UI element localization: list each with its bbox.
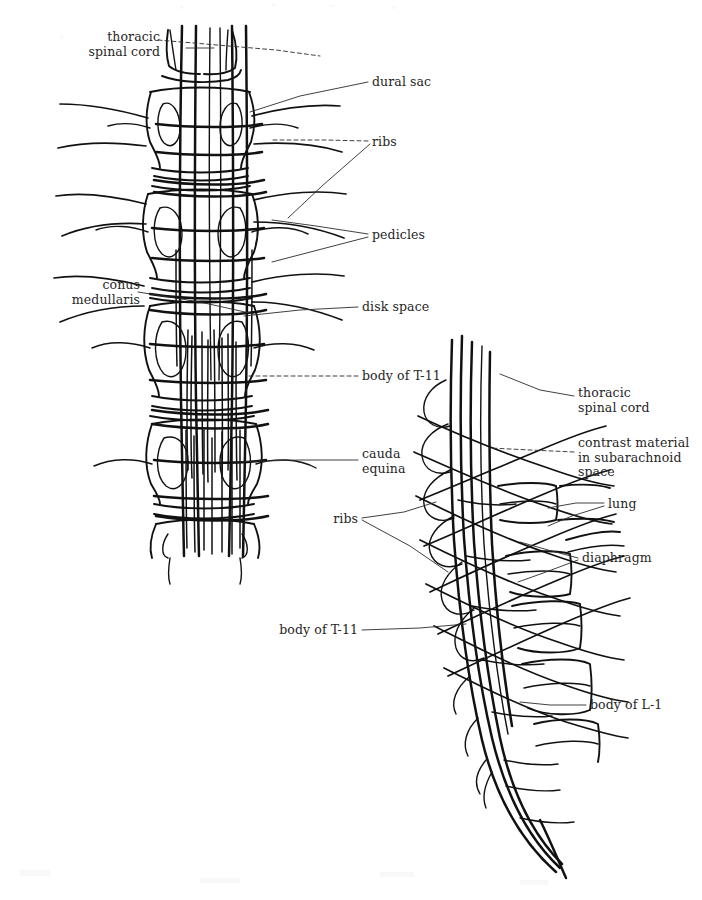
label-body-of-t11-lateral: body of T-11 xyxy=(258,623,358,638)
leader-ribs-lat-a xyxy=(362,502,436,518)
ap-rib-right-3 xyxy=(254,192,346,200)
ap-vertebra-3 xyxy=(96,190,308,283)
label-dural-sac: dural sac xyxy=(372,75,482,90)
ap-lower-edge-2 xyxy=(240,558,242,584)
ap-rib-left-6 xyxy=(60,306,144,322)
label-body-of-l1: body of L-1 xyxy=(590,698,700,713)
lat-diaphragm-dome xyxy=(566,531,620,540)
label-contrast-material: contrast material in subarachnoid space xyxy=(578,436,700,480)
ap-disk-2 xyxy=(152,288,250,293)
leader-ribs-lat-b xyxy=(362,520,448,572)
leader-ribs-a xyxy=(272,140,368,141)
label-pedicles: pedicles xyxy=(372,228,482,243)
lat-lower-tissue-3 xyxy=(484,772,492,808)
myelogram-figure: thoracic spinal cord conus medullaris du… xyxy=(0,0,702,900)
ap-rib-left-4 xyxy=(62,224,146,237)
ap-vertebra-top xyxy=(162,30,241,82)
ap-rib-left-2 xyxy=(58,143,146,148)
label-body-of-t11: body of T-11 xyxy=(362,369,482,384)
ap-rib-right-2 xyxy=(254,143,342,152)
ap-rib-left-1 xyxy=(60,104,148,118)
lateral-view-group xyxy=(362,336,630,878)
ap-lower-edge-1 xyxy=(169,558,171,584)
ap-vertebra-t11 xyxy=(92,302,314,401)
label-ribs: ribs xyxy=(372,135,462,150)
ap-rib-left-3 xyxy=(56,194,146,204)
label-disk-space: disk space xyxy=(362,300,472,315)
label-lung: lung xyxy=(608,497,678,512)
label-conus-medullaris: conus medullaris xyxy=(30,278,140,307)
leader-ribs-b xyxy=(288,144,370,218)
label-thoracic-spinal-cord-lateral: thoracic spinal cord xyxy=(578,386,698,415)
ap-vertebra-2 xyxy=(108,88,298,173)
leader-diaphragm-a xyxy=(520,542,578,558)
leader-dural-sac xyxy=(250,82,368,112)
label-cauda-equina: cauda equina xyxy=(362,447,462,476)
label-ribs-lateral: ribs xyxy=(300,512,358,527)
leader-body-l1 xyxy=(520,702,586,705)
leader-pedicles-a xyxy=(272,220,368,234)
leader-lat-thoracic-cord xyxy=(500,374,574,396)
leader-pedicles-b xyxy=(272,237,368,262)
label-diaphragm: diaphragm xyxy=(582,551,692,566)
ap-rib-right-5 xyxy=(252,274,344,282)
label-thoracic-spinal-cord: thoracic spinal cord xyxy=(40,30,160,59)
